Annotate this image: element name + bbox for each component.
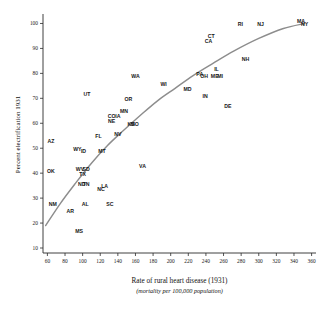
x-tick-label: 140	[114, 258, 122, 264]
state-point-label: FL	[95, 133, 102, 139]
x-tick-label: 340	[290, 258, 298, 264]
scatter-chart: 102030405060708090100 608010012014016018…	[0, 0, 327, 312]
x-tick-label: 220	[184, 258, 192, 264]
state-point-label: NJ	[257, 21, 264, 27]
y-tick-label: 20	[33, 220, 39, 226]
trend-curve	[46, 23, 305, 225]
x-tick-label: 280	[237, 258, 245, 264]
state-point-label: NH	[242, 56, 250, 62]
state-point-label: SD	[83, 166, 90, 172]
state-point-label: MS	[75, 228, 83, 234]
y-tick-label: 80	[33, 70, 39, 76]
y-tick-label: 100	[30, 20, 38, 26]
y-tick-label: 70	[33, 95, 39, 101]
state-point-label: WI	[160, 81, 167, 87]
state-point-label: OH	[200, 73, 208, 79]
y-tick-label: 40	[33, 170, 39, 176]
state-point-label: IN	[202, 93, 207, 99]
state-point-label: OR	[125, 96, 133, 102]
y-axis-title: Percent electrification 1931	[14, 95, 22, 173]
x-tick-label: 260	[219, 258, 227, 264]
y-tick-label: 10	[33, 245, 39, 251]
x-tick-label: 60	[45, 258, 51, 264]
state-point-label: WY	[73, 146, 82, 152]
x-tick-label: 160	[131, 258, 139, 264]
state-point-label: SC	[106, 201, 113, 207]
x-axis-title: Rate of rural heart disease (1931)	[132, 277, 229, 285]
state-point-label: IL	[214, 66, 219, 72]
x-tick-label: 240	[202, 258, 210, 264]
state-point-label: MT	[98, 148, 106, 154]
state-point-label: MD	[183, 86, 191, 92]
state-point-label: MI	[217, 73, 223, 79]
state-point-label: AR	[67, 208, 75, 214]
y-axis-ticks: 102030405060708090100	[30, 20, 43, 251]
state-point-label: ID	[81, 148, 86, 154]
x-tick-label: 180	[149, 258, 157, 264]
state-point-label: NV	[114, 131, 122, 137]
state-point-label: UT	[84, 91, 92, 97]
state-point-label: AZ	[47, 138, 55, 144]
state-point-label: NM	[49, 201, 57, 207]
state-point-label: KS	[127, 121, 135, 127]
state-point-label: MN	[120, 108, 128, 114]
state-point-label: OK	[47, 168, 55, 174]
state-point-label: RI	[238, 21, 244, 27]
y-tick-label: 90	[33, 45, 39, 51]
state-point-label: WA	[131, 73, 140, 79]
state-point-label: TN	[83, 181, 90, 187]
x-axis-ticks: 6080100120140160180200220240260280300320…	[45, 253, 316, 264]
state-point-label: NY	[301, 21, 309, 27]
x-tick-label: 360	[308, 258, 316, 264]
x-tick-label: 120	[96, 258, 104, 264]
state-point-label: AL	[82, 201, 90, 207]
x-tick-label: 80	[62, 258, 68, 264]
x-tick-label: 300	[255, 258, 263, 264]
x-tick-label: 320	[272, 258, 280, 264]
x-axis-subtitle: (mortality per 100,000 population)	[136, 287, 223, 295]
plot-area: 102030405060708090100 608010012014016018…	[0, 0, 327, 312]
x-tick-label: 100	[79, 258, 87, 264]
data-point-labels: MSARNMALSCNCLANDTNTXOKWVSDVAIDMTWYAZFLNV…	[47, 18, 309, 234]
state-point-label: VA	[139, 163, 146, 169]
y-tick-label: 50	[33, 145, 39, 151]
state-point-label: LA	[101, 183, 108, 189]
state-point-label: DE	[224, 103, 232, 109]
state-point-label: CT	[208, 33, 216, 39]
x-tick-label: 200	[167, 258, 175, 264]
y-tick-label: 60	[33, 120, 39, 126]
y-tick-label: 30	[33, 195, 39, 201]
